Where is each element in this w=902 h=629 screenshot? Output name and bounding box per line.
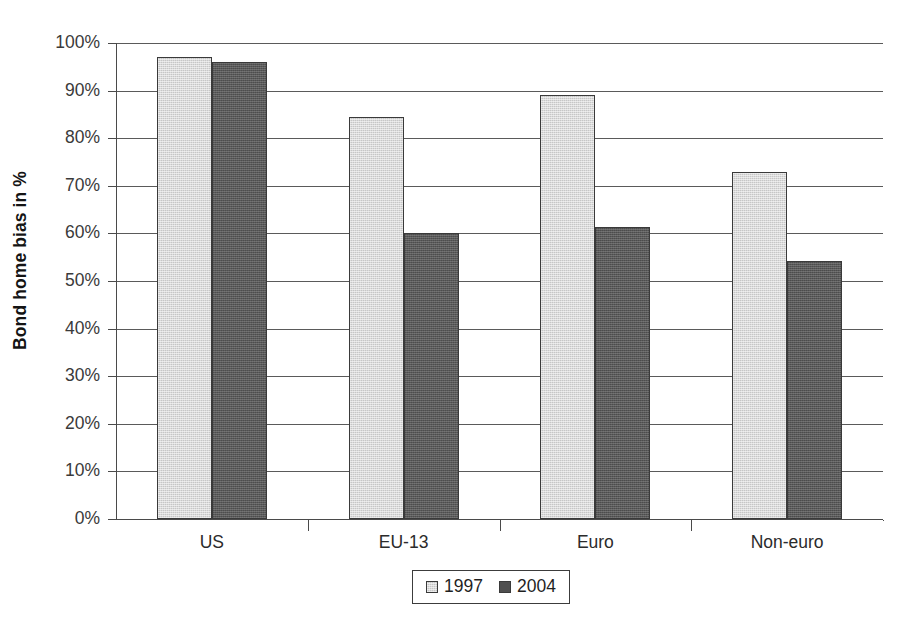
y-tick-label-100pct: 100% xyxy=(42,34,100,52)
gridline-100pct xyxy=(116,43,883,44)
y-tick-label-20pct: 20% xyxy=(42,415,100,433)
x-axis-category-label-eu-13: EU-13 xyxy=(308,533,500,552)
y-tick-mark-10pct xyxy=(108,471,117,472)
x-axis-category-label-us: US xyxy=(116,533,308,552)
plot-area xyxy=(116,43,883,519)
bar-eu-13-1997[interactable] xyxy=(349,117,404,519)
bar-eu-13-2004[interactable] xyxy=(404,233,459,519)
x-axis-category-label-euro: Euro xyxy=(500,533,692,552)
y-tick-label-30pct: 30% xyxy=(42,367,100,385)
y-tick-mark-50pct xyxy=(108,281,117,282)
chart-legend: 19972004 xyxy=(412,570,570,604)
y-tick-mark-80pct xyxy=(108,138,117,139)
y-tick-label-50pct: 50% xyxy=(42,272,100,290)
y-tick-mark-70pct xyxy=(108,186,117,187)
y-tick-label-70pct: 70% xyxy=(42,177,100,195)
y-tick-label-60pct: 60% xyxy=(42,224,100,242)
bar-euro-1997[interactable] xyxy=(540,95,595,519)
legend-entry-1997[interactable]: 1997 xyxy=(426,578,483,596)
bar-non-euro-1997[interactable] xyxy=(732,172,787,519)
legend-swatch-2004 xyxy=(499,581,511,593)
y-tick-mark-100pct xyxy=(108,43,117,44)
y-tick-mark-0pct xyxy=(108,519,117,520)
bond-home-bias-bar-chart: Bond home bias in % 0%10%20%30%40%50%60%… xyxy=(0,0,902,629)
y-tick-mark-90pct xyxy=(108,91,117,92)
y-tick-mark-40pct xyxy=(108,329,117,330)
y-axis-title-text: Bond home bias in % xyxy=(10,171,31,350)
x-axis-category-label-non-euro: Non-euro xyxy=(691,533,883,552)
y-tick-label-0pct: 0% xyxy=(42,510,100,528)
y-axis-title: Bond home bias in % xyxy=(0,0,40,520)
y-tick-label-10pct: 10% xyxy=(42,462,100,480)
legend-label-1997: 1997 xyxy=(444,578,483,596)
y-tick-mark-60pct xyxy=(108,233,117,234)
y-tick-label-40pct: 40% xyxy=(42,320,100,338)
legend-label-2004: 2004 xyxy=(517,578,556,596)
bar-us-2004[interactable] xyxy=(212,62,267,519)
y-tick-mark-20pct xyxy=(108,424,117,425)
x-axis-end-tick xyxy=(883,520,884,521)
x-axis-separator-tick-3 xyxy=(691,520,692,531)
y-tick-label-80pct: 80% xyxy=(42,129,100,147)
y-axis-tick-labels: 0%10%20%30%40%50%60%70%80%90%100% xyxy=(38,0,100,629)
x-axis-separator-tick-2 xyxy=(500,520,501,531)
y-tick-mark-30pct xyxy=(108,376,117,377)
x-axis-separator-tick-1 xyxy=(308,520,309,531)
legend-swatch-1997 xyxy=(426,581,438,593)
legend-entry-2004[interactable]: 2004 xyxy=(499,578,556,596)
bar-us-1997[interactable] xyxy=(157,57,212,519)
bar-euro-2004[interactable] xyxy=(595,227,650,519)
bar-non-euro-2004[interactable] xyxy=(787,261,842,519)
y-tick-label-90pct: 90% xyxy=(42,82,100,100)
